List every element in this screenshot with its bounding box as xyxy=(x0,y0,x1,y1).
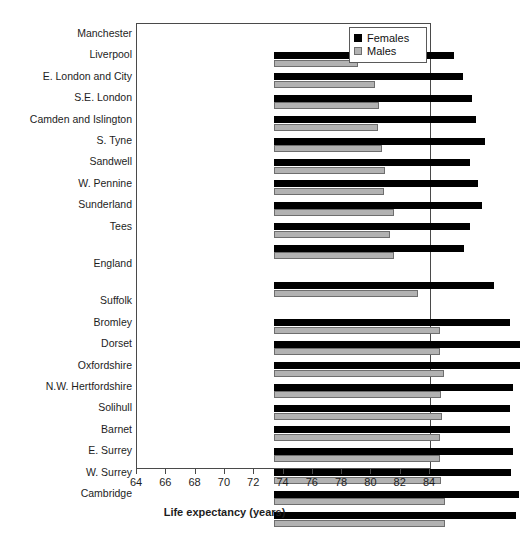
x-tick-label: 80 xyxy=(355,476,385,489)
bar-females xyxy=(274,405,510,412)
black-square-icon xyxy=(354,34,362,42)
x-tick-label: 76 xyxy=(297,476,327,489)
bar-males xyxy=(274,60,358,67)
category-label: Bromley xyxy=(0,317,132,328)
x-tick-label: 82 xyxy=(385,476,415,489)
bar-females xyxy=(274,73,463,80)
x-tick xyxy=(283,469,284,474)
bar-females xyxy=(274,282,494,289)
category-label: S.E. London xyxy=(0,92,132,103)
bar-females xyxy=(274,426,510,433)
bar-males xyxy=(274,124,378,131)
category-label: E. London and City xyxy=(0,71,132,82)
x-tick-label: 72 xyxy=(238,476,268,489)
x-tick-label: 64 xyxy=(121,476,151,489)
x-tick xyxy=(400,469,401,474)
category-label: Tees xyxy=(0,221,132,232)
category-label: Liverpool xyxy=(0,49,132,60)
x-tick-label: 66 xyxy=(150,476,180,489)
bar-males xyxy=(274,520,445,527)
category-label: Dorset xyxy=(0,338,132,349)
bar-males xyxy=(274,413,442,420)
x-tick-label: 70 xyxy=(209,476,239,489)
bar-females xyxy=(274,362,520,369)
x-tick xyxy=(312,469,313,474)
bar-females xyxy=(274,319,510,326)
bar-females xyxy=(274,95,472,102)
legend-label-females: Females xyxy=(367,32,409,44)
category-label: England xyxy=(0,258,132,269)
chart-legend: Females Males xyxy=(349,27,427,63)
bar-males xyxy=(274,188,384,195)
legend-item-males: Males xyxy=(354,45,422,57)
bar-males xyxy=(274,290,418,297)
category-label: N.W. Hertfordshire xyxy=(0,381,132,392)
plot-area xyxy=(136,23,431,469)
bar-females xyxy=(274,448,513,455)
x-tick xyxy=(165,469,166,474)
bar-males xyxy=(274,434,440,441)
category-label: Sandwell xyxy=(0,156,132,167)
x-tick-label: 74 xyxy=(268,476,298,489)
x-tick xyxy=(341,469,342,474)
bar-females xyxy=(274,116,476,123)
bar-males xyxy=(274,391,441,398)
bar-males xyxy=(274,348,440,355)
bar-females xyxy=(274,223,470,230)
x-tick xyxy=(253,469,254,474)
legend-item-females: Females xyxy=(354,32,422,44)
category-label: Oxfordshire xyxy=(0,360,132,371)
x-tick xyxy=(429,469,430,474)
category-label: Suffolk xyxy=(0,295,132,306)
category-label: E. Surrey xyxy=(0,445,132,456)
bar-males xyxy=(274,455,440,462)
bar-males xyxy=(274,102,379,109)
bar-females xyxy=(274,180,478,187)
bar-males xyxy=(274,167,385,174)
bar-males xyxy=(274,145,382,152)
bar-males xyxy=(274,231,390,238)
bar-males xyxy=(274,498,445,505)
x-tick xyxy=(224,469,225,474)
bar-males xyxy=(274,370,444,377)
x-axis-title: Life expectancy (years) xyxy=(0,506,449,518)
category-axis-labels: ManchesterLiverpoolE. London and CityS.E… xyxy=(0,23,132,469)
category-label: Manchester xyxy=(0,28,132,39)
category-label: Sunderland xyxy=(0,199,132,210)
x-axis-ticks xyxy=(136,469,431,475)
bar-females xyxy=(274,138,485,145)
category-label: Solihull xyxy=(0,402,132,413)
x-tick xyxy=(195,469,196,474)
bar-males xyxy=(274,209,394,216)
bar-females xyxy=(274,341,520,348)
gray-square-icon xyxy=(354,47,362,55)
category-label: W. Pennine xyxy=(0,178,132,189)
bar-females xyxy=(274,159,470,166)
category-label: S. Tyne xyxy=(0,135,132,146)
bar-females xyxy=(274,245,464,252)
bar-females xyxy=(274,202,482,209)
x-tick xyxy=(370,469,371,474)
x-tick-label: 84 xyxy=(414,476,444,489)
category-label: Barnet xyxy=(0,424,132,435)
bar-males xyxy=(274,327,440,334)
bar-females xyxy=(274,384,513,391)
legend-label-males: Males xyxy=(367,45,396,57)
bars-layer xyxy=(274,48,524,492)
bar-males xyxy=(274,81,375,88)
bar-males xyxy=(274,252,394,259)
x-tick-label: 78 xyxy=(326,476,356,489)
x-axis-tick-labels: 6466687072747678808284 xyxy=(0,476,449,492)
category-label: Camden and Islington xyxy=(0,114,132,125)
x-tick xyxy=(136,469,137,474)
x-tick-label: 68 xyxy=(180,476,210,489)
